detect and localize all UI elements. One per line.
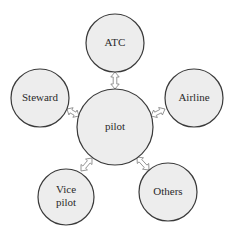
- node-label-vice-pilot: Vice: [56, 183, 76, 195]
- double-arrow-icon-pilot-atc: [111, 72, 119, 89]
- node-vice-pilot: Vicepilot: [38, 169, 94, 225]
- node-airline: Airline: [165, 69, 223, 127]
- node-label-steward: Steward: [22, 91, 59, 103]
- double-arrow-icon-pilot-others: [137, 157, 149, 170]
- node-steward: Steward: [11, 69, 69, 127]
- node-label-airline: Airline: [178, 91, 209, 103]
- double-arrow-icon-pilot-vice-pilot: [81, 158, 92, 171]
- node-label-pilot: pilot: [105, 120, 125, 132]
- pilot-communication-diagram: pilotATCStewardAirlineVicepilotOthers: [0, 0, 231, 233]
- node-atc: ATC: [86, 14, 144, 72]
- double-arrow-icon-pilot-airline: [151, 107, 165, 117]
- nodes-layer: pilotATCStewardAirlineVicepilotOthers: [11, 14, 223, 225]
- node-label-atc: ATC: [105, 36, 126, 48]
- node-pilot: pilot: [77, 89, 153, 165]
- node-label-others: Others: [153, 185, 182, 197]
- double-arrow-icon-pilot-steward: [67, 108, 79, 118]
- node-others: Others: [139, 163, 197, 221]
- node-label-vice-pilot: pilot: [56, 196, 76, 208]
